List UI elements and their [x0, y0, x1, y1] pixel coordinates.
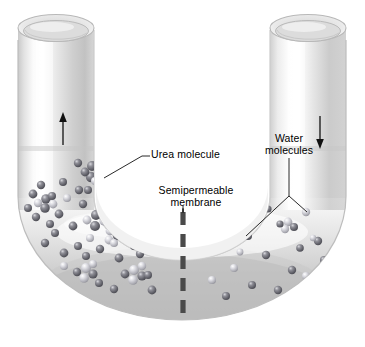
tube-left-opening — [18, 15, 94, 42]
u-tube-figure — [0, 0, 365, 347]
molecule — [63, 194, 71, 202]
molecule — [208, 276, 216, 284]
molecule — [79, 200, 87, 208]
molecule — [230, 264, 238, 272]
molecule — [29, 190, 38, 199]
label-water-molecules: Water molecules — [258, 133, 320, 156]
label-water-line-1: Water — [258, 133, 320, 145]
molecule — [115, 254, 124, 263]
molecule — [24, 204, 32, 212]
molecule — [310, 235, 316, 241]
molecule — [69, 222, 78, 231]
molecule — [95, 279, 103, 287]
molecule — [82, 252, 90, 260]
label-urea-molecule: Urea molecule — [151, 149, 220, 161]
molecule — [320, 256, 328, 264]
molecule — [110, 285, 118, 293]
molecule — [86, 234, 94, 242]
tube-right-opening — [270, 15, 346, 42]
molecule — [74, 242, 82, 250]
molecule — [37, 181, 45, 189]
molecule — [262, 251, 270, 259]
label-semipermeable-membrane: Semipermeable membrane — [146, 185, 246, 208]
molecule — [237, 249, 244, 256]
tube-body — [18, 15, 346, 347]
molecule — [60, 262, 68, 270]
label-water-line-2: molecules — [258, 145, 320, 157]
molecule — [288, 266, 296, 274]
molecule — [296, 244, 304, 252]
molecule — [84, 186, 92, 194]
molecule — [74, 159, 82, 167]
molecule — [96, 245, 104, 253]
label-membrane-line-2: membrane — [146, 197, 246, 209]
molecule — [46, 220, 54, 228]
molecule — [51, 229, 59, 237]
tube-inner-gap — [94, 30, 270, 260]
molecule — [222, 292, 230, 300]
molecule — [248, 281, 256, 289]
molecule — [75, 186, 83, 194]
label-membrane-line-1: Semipermeable — [146, 185, 246, 197]
molecule — [41, 239, 49, 247]
molecule — [59, 178, 67, 186]
molecule — [148, 286, 157, 295]
molecule — [32, 213, 40, 221]
molecule — [110, 239, 118, 247]
diagram-canvas: Urea molecule Semipermeable membrane Wat… — [0, 0, 365, 347]
molecule — [302, 272, 310, 280]
molecule — [55, 210, 64, 219]
molecule — [60, 249, 69, 258]
molecule — [274, 286, 282, 294]
